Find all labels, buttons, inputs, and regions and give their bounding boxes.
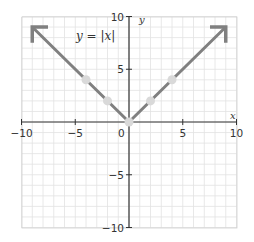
y-tick-label: 5 <box>117 63 124 75</box>
equation-label: y = |x| <box>75 29 115 43</box>
y-tick-label: −10 <box>102 222 124 234</box>
data-point <box>125 118 134 127</box>
data-point <box>168 75 177 84</box>
x-axis-label: x <box>230 110 236 121</box>
y-tick-label: 10 <box>111 11 124 23</box>
x-tick-label: 10 <box>230 127 243 139</box>
x-tick-label: 5 <box>179 127 186 139</box>
data-point <box>103 96 112 105</box>
x-tick-label: −10 <box>10 127 32 139</box>
data-point <box>82 75 91 84</box>
absolute-value-graph: −10−5510105−5−10 y = |x| y x 0 <box>0 0 254 242</box>
origin-label: 0 <box>118 127 125 139</box>
y-tick-label: −5 <box>109 169 124 181</box>
data-point <box>146 96 155 105</box>
y-axis-label: y <box>138 14 145 25</box>
x-tick-label: −5 <box>68 127 83 139</box>
